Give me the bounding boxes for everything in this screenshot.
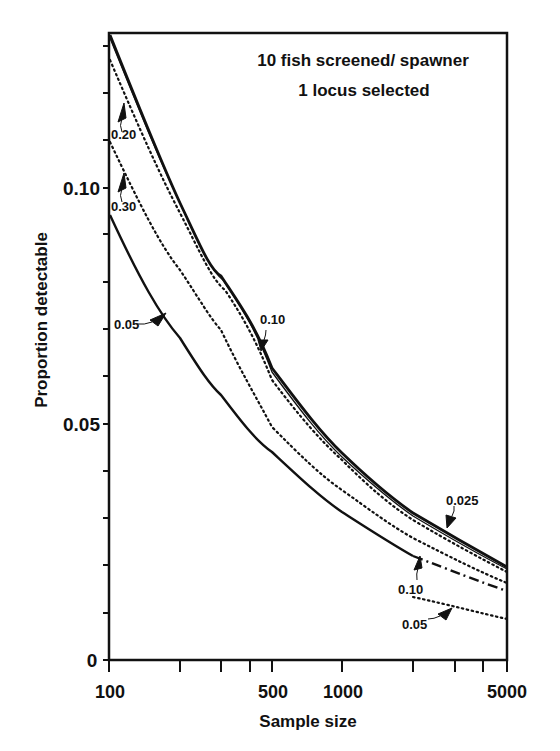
annotation-label-010-dashdot: 0.10 xyxy=(398,582,423,597)
line-chart: 0 0 0.05 0.10 100 500 1000 5000 Sample s… xyxy=(0,0,560,751)
annotation-label-020: 0.20 xyxy=(111,127,136,142)
x-axis-title: Sample size xyxy=(259,712,356,731)
chart-subtitle: 1 locus selected xyxy=(298,81,429,100)
annotation-label-005: 0.05 xyxy=(114,317,139,332)
curve-010-solid-thin xyxy=(110,38,507,569)
arrow-icon xyxy=(150,313,166,326)
plot-frame xyxy=(109,33,507,660)
x-tick-label-500: 500 xyxy=(258,682,288,702)
annotation-label-010: 0.10 xyxy=(260,312,285,327)
annotation-label-005-dotted: 0.05 xyxy=(402,617,427,632)
curve-005-dotted xyxy=(413,597,507,619)
arrow-icon xyxy=(438,608,452,620)
x-tick-label-100: 100 xyxy=(95,682,125,702)
y-axis-title: Proportion detectable xyxy=(32,232,51,408)
y-tick-label-0: 0 xyxy=(87,650,98,671)
x-axis-ticks xyxy=(109,660,507,672)
chart-title: 10 fish screened/ spawner xyxy=(257,51,469,70)
curve-005-solid xyxy=(110,215,413,556)
curves xyxy=(110,35,507,619)
curve-0025-solid-thick xyxy=(110,35,507,567)
annotation-label-030: 0.30 xyxy=(111,199,136,214)
x-tick-label-1000: 1000 xyxy=(323,682,363,702)
x-tick-label-5000: 5000 xyxy=(487,682,527,702)
y-tick-label-005: 0.05 xyxy=(63,414,100,435)
y-tick-label-010: 0.10 xyxy=(63,178,100,199)
annotation-label-0025: 0.025 xyxy=(446,493,479,508)
arrow-icon xyxy=(446,515,456,528)
